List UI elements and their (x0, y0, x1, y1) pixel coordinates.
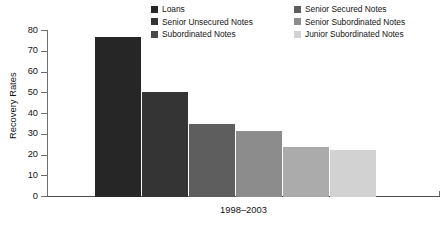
bar-series-1998-2003 (47, 31, 440, 197)
bar-junior-subordinated-notes (330, 150, 376, 197)
y-axis-label-30: 30 (4, 129, 38, 138)
legend-label-senior-secured-notes: Senior Secured Notes (305, 5, 387, 13)
bar-senior-unsecured-notes (189, 124, 235, 197)
legend-item-senior-secured-notes: Senior Secured Notes (294, 3, 443, 16)
legend-swatch-icon-senior-secured-notes (294, 6, 301, 13)
legend-swatch-icon-senior-unsecured-notes (151, 18, 158, 25)
legend-label-senior-unsecured-notes: Senior Unsecured Notes (162, 18, 253, 26)
legend-swatch-icon-loans (151, 6, 158, 13)
y-axis-labels: 80 70 60 50 40 30 20 10 0 (0, 0, 38, 231)
legend-item-senior-unsecured-notes: Senior Unsecured Notes (151, 16, 294, 29)
bar-chart-figure: Loans Senior Secured Notes Senior Unsecu… (0, 0, 445, 231)
legend-swatch-icon-senior-subordinated-notes (294, 18, 301, 25)
bar-subordinated-notes (283, 147, 329, 197)
legend-item-senior-subordinated-notes: Senior Subordinated Notes (294, 16, 443, 29)
plot-area (47, 30, 440, 197)
bar-senior-subordinated-notes (236, 131, 282, 197)
y-axis-label-60: 60 (4, 67, 38, 76)
bar-loans (95, 37, 141, 197)
legend-label-senior-subordinated-notes: Senior Subordinated Notes (305, 18, 405, 26)
y-axis-label-0: 0 (4, 192, 38, 201)
legend-label-loans: Loans (162, 5, 185, 13)
y-axis-label-50: 50 (4, 88, 38, 97)
y-axis-label-20: 20 (4, 150, 38, 159)
y-axis-label-40: 40 (4, 109, 38, 118)
legend-item-loans: Loans (151, 3, 294, 16)
y-axis-label-70: 70 (4, 46, 38, 55)
bar-senior-secured-notes (142, 92, 188, 197)
y-axis-label-80: 80 (4, 26, 38, 35)
y-axis-label-10: 10 (4, 171, 38, 180)
x-axis-group-label: 1998–2003 (47, 205, 440, 214)
